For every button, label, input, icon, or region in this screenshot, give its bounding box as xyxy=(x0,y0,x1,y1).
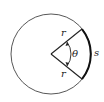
label-radius-lower: r xyxy=(61,68,67,79)
arc-s xyxy=(82,29,91,79)
label-arc: s xyxy=(94,47,99,58)
circle-diagram: r θ r s xyxy=(0,0,104,102)
label-radius-upper: r xyxy=(61,27,67,38)
label-angle: θ xyxy=(72,48,78,59)
angle-arc xyxy=(67,42,71,66)
